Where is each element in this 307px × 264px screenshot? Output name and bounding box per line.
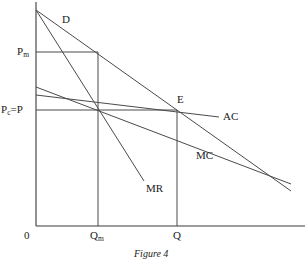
- pc-sub: c: [7, 108, 10, 117]
- pc-tail: =P: [10, 103, 22, 115]
- quantity-competitive-label: Q: [173, 230, 181, 241]
- marginal-revenue-curve: [36, 10, 144, 181]
- marginal-revenue-label: MR: [146, 183, 163, 194]
- average-cost-label: AC: [223, 111, 238, 122]
- figure-caption: Figure 4: [134, 248, 168, 259]
- origin-label: 0: [24, 230, 30, 241]
- pm-sub: m: [23, 50, 29, 59]
- qm-sub: m: [98, 234, 104, 243]
- price-monopoly-label: Pm: [17, 46, 29, 57]
- diagram-canvas: [0, 0, 307, 264]
- demand-curve: [36, 10, 291, 191]
- average-cost-curve: [36, 95, 219, 117]
- equilibrium-point-label: E: [177, 94, 184, 105]
- marginal-cost-label: MC: [196, 150, 213, 161]
- marginal-cost-curve: [36, 87, 291, 184]
- figure-diagram: D MR AC MC E Pm Pc=P 0 Qm Q Figure 4: [0, 0, 307, 264]
- demand-label: D: [62, 14, 70, 25]
- quantity-monopoly-label: Qm: [90, 230, 104, 241]
- qm-main: Q: [90, 229, 98, 241]
- price-competitive-label: Pc=P: [1, 104, 23, 115]
